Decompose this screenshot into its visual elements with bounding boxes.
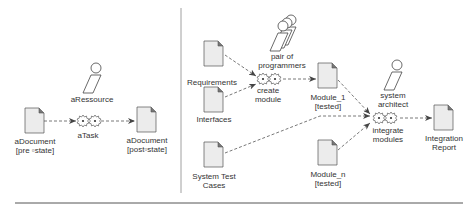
system-test-cases-document-icon [204, 142, 223, 167]
system-test-cases-line1: System Test [192, 172, 235, 181]
resource-label: aRessource [71, 95, 114, 104]
system-test-cases-line2: Cases [192, 181, 235, 190]
system-architect-person-icon [384, 60, 402, 90]
pair-of-programmers-label: pair of programmers [258, 52, 306, 70]
create-module-label: create module [255, 86, 281, 104]
module-n-name: Module_n [310, 170, 345, 179]
requirements-label: Requirements [187, 78, 237, 87]
integrate-modules-label: integrate modules [372, 126, 403, 144]
integration-report-line1: Integration [425, 134, 463, 143]
pre-document-name: aDocument [15, 137, 56, 146]
interfaces-label: Interfaces [196, 115, 231, 124]
integration-report-label: Integration Report [425, 134, 463, 152]
module-n-document-icon [318, 140, 337, 165]
pair-of-programmers-line2: programmers [258, 61, 306, 70]
module-1-document-icon [318, 63, 337, 88]
interfaces-document-icon [204, 87, 223, 112]
pre-document-label: aDocument [pre ▫state] [15, 137, 56, 155]
resource-person-icon [83, 63, 101, 93]
integrate-modules-gears-icon [373, 112, 397, 124]
pre-document-icon [25, 108, 44, 133]
post-document-label: aDocument [post▫state] [127, 136, 168, 154]
integrate-modules-line1: integrate [372, 126, 403, 135]
module-n-label: Module_n [tested] [310, 170, 345, 188]
system-architect-label: system architect [378, 91, 408, 109]
module-n-state: [tested] [310, 179, 345, 188]
system-architect-line1: system [378, 91, 408, 100]
integrate-modules-line2: modules [372, 135, 403, 144]
system-architect-line2: architect [378, 100, 408, 109]
create-module-line2: module [255, 95, 281, 104]
module-1-state: [tested] [310, 102, 345, 111]
requirements-document-icon [204, 41, 223, 66]
pair-of-programmers-line1: pair of [258, 52, 306, 61]
system-test-cases-label: System Test Cases [192, 172, 235, 190]
post-document-icon [137, 107, 156, 132]
create-module-gears-icon [257, 73, 281, 85]
pair-of-programmers-icon [270, 15, 296, 51]
create-module-line1: create [255, 86, 281, 95]
post-document-state: [post▫state] [127, 145, 168, 154]
task-gears-icon [77, 115, 101, 127]
integration-report-document-icon [434, 105, 453, 130]
post-document-name: aDocument [127, 136, 168, 145]
integration-report-line2: Report [425, 143, 463, 152]
module-1-name: Module_1 [310, 93, 345, 102]
task-label: aTask [78, 131, 99, 140]
module-1-label: Module_1 [tested] [310, 93, 345, 111]
pre-document-state: [pre ▫state] [15, 146, 56, 155]
